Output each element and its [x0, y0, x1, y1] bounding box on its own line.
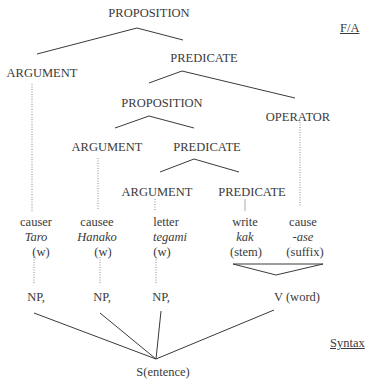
node-np-1: NP, — [27, 291, 45, 304]
node-np-2: NP, — [93, 291, 111, 304]
word-2-gloss: causee — [80, 216, 113, 229]
node-argument-1: ARGUMENT — [7, 67, 78, 80]
node-verb: V (word) — [274, 291, 320, 304]
word-4-gloss: write — [232, 216, 258, 229]
node-predicate-1: PREDICATE — [170, 52, 237, 65]
fa-layer-label: F/A — [340, 22, 359, 35]
word-3-form: tegami — [153, 231, 187, 244]
node-argument-2: ARGUMENT — [72, 141, 143, 154]
branch-root — [37, 28, 183, 54]
edge-np1-s — [34, 313, 156, 359]
node-predicate-2: PREDICATE — [173, 141, 240, 154]
word-1-gloss: causer — [20, 216, 52, 229]
edge-np2-s — [100, 313, 156, 359]
word-2-form: Hanako — [77, 231, 117, 244]
node-np-3: NP, — [152, 291, 170, 304]
word-4-type: (stem) — [230, 246, 262, 259]
node-argument-3: ARGUMENT — [122, 186, 193, 199]
node-proposition-2: PROPOSITION — [121, 97, 202, 110]
fa-syntax-diagram: F/A Syntax PROPOSITION PREDICATE ARGUMEN… — [0, 0, 375, 387]
edge-np3-s — [156, 311, 161, 359]
word-5-gloss: cause — [289, 216, 317, 229]
node-sentence: S(entence) — [136, 366, 189, 379]
syntax-layer-label: Syntax — [330, 337, 365, 350]
word-4-form: kak — [236, 231, 253, 244]
word-1-form: Taro — [25, 231, 48, 244]
word-3-gloss: letter — [153, 216, 179, 229]
node-proposition-root: PROPOSITION — [108, 7, 189, 20]
word-3-type: (w) — [153, 246, 170, 259]
word-2-type: (w) — [94, 246, 111, 259]
node-operator: OPERATOR — [266, 111, 330, 124]
branch-predicate2 — [160, 159, 239, 172]
word-triangle — [233, 264, 323, 275]
word-5-type: (suffix) — [286, 246, 323, 259]
node-predicate-3: PREDICATE — [218, 186, 285, 199]
word-5-form: -ase — [293, 231, 314, 244]
edge-v-s — [156, 310, 274, 359]
word-1-type: (w) — [32, 246, 49, 259]
branch-proposition2 — [115, 116, 194, 128]
branch-predicate1 — [149, 71, 295, 98]
